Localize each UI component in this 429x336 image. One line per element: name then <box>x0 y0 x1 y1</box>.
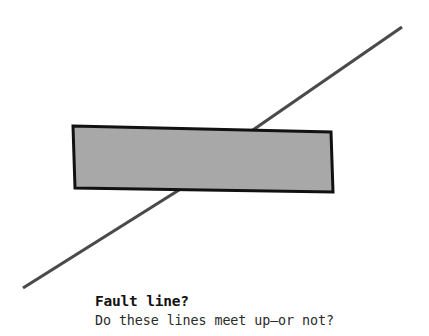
caption-subtitle: Do these lines meet up—or not? <box>95 311 425 330</box>
caption-title: Fault line? <box>95 292 425 311</box>
illusion-canvas <box>0 0 429 296</box>
illusion-figure: Fault line? Do these lines meet up—or no… <box>0 0 429 336</box>
diagonal-line-lower-segment <box>23 190 179 288</box>
illusion-stage <box>0 0 429 296</box>
occluding-bar <box>73 126 333 192</box>
caption-block: Fault line? Do these lines meet up—or no… <box>95 292 425 330</box>
diagonal-line-upper-segment <box>250 27 402 132</box>
